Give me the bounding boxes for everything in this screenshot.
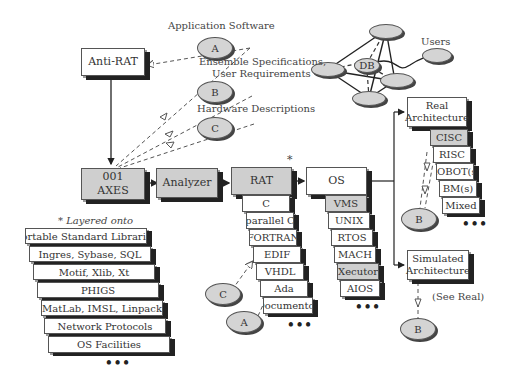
stack-label: BM(s) (443, 183, 474, 194)
oval-label: C (211, 123, 219, 134)
oval-label: A (211, 43, 218, 54)
os-stack-item: Xecutor (337, 263, 379, 280)
oval-label: B (414, 324, 421, 335)
stack-label: FORTRAN (249, 232, 297, 243)
ensemble-label-1: Ensemble Specifications, (199, 56, 326, 67)
oval-a-rat: A (226, 311, 262, 333)
oval-b: B (197, 81, 233, 103)
users-label: Users (421, 36, 450, 47)
simulated-architecture-box: Simulated Architecture (407, 250, 469, 280)
ensemble-label-2: User Requirements (212, 68, 311, 79)
axes-box: 001 AXES (81, 168, 145, 200)
layer-label: Network Protocols (58, 321, 153, 332)
stack-label: AIOS (347, 283, 373, 294)
stack-label: Documentor (263, 300, 313, 311)
rat-stack-item: C (242, 195, 290, 212)
network-node (369, 24, 403, 39)
hardware-descriptions-label: Hardware Descriptions (197, 103, 315, 114)
layer-label: Portable Standard Libraries (25, 231, 147, 242)
oval-label: B (415, 214, 422, 225)
rat-stack-ellipsis: ••• (287, 318, 313, 332)
users-node (422, 48, 452, 63)
application-software-label: Application Software (168, 20, 275, 31)
stack-label: VMS (334, 198, 358, 209)
rat-stack-item: parallel C (246, 212, 294, 229)
rat-box: RAT (231, 167, 292, 195)
rat-label: RAT (250, 174, 273, 188)
oval-label: B (211, 87, 218, 98)
layer-label: Ingres, Sybase, SQL (39, 249, 142, 260)
stack-label: ROBOT(s) (436, 166, 474, 177)
rat-stack-item: Documentor (263, 297, 313, 314)
sim-label-2: Architecture (406, 265, 470, 277)
stack-label: RTOS (337, 232, 366, 243)
layered-onto-title: * Layered onto (58, 215, 133, 226)
db-node: DB (354, 58, 380, 73)
real-label-2: Architecture (405, 112, 469, 124)
layer-item: Ingres, Sybase, SQL (29, 246, 151, 262)
layer-item: PHIGS (37, 282, 159, 298)
analyzer-box: Analyzer (156, 168, 218, 198)
arch-stack-item: BM(s) (439, 180, 477, 197)
layer-item: Portable Standard Libraries (25, 228, 147, 244)
network-node (352, 91, 386, 106)
oval-c-rat: C (205, 283, 241, 305)
stack-label: VHDL (265, 266, 296, 277)
anti-rat-label: Anti-RAT (88, 55, 138, 69)
arch-stack-ellipsis: ••• (462, 217, 488, 231)
stack-label: parallel C (246, 215, 294, 226)
arch-stack-item: ROBOT(s) (436, 163, 474, 180)
layer-item: MatLab, IMSL, Linpack (41, 300, 163, 316)
db-label: DB (359, 60, 374, 71)
layer-item: Network Protocols (44, 318, 166, 334)
oval-b-real: B (401, 208, 437, 230)
see-real-label: (See Real) (432, 291, 484, 302)
os-box: OS (306, 167, 367, 195)
arch-stack-item: Mixed (442, 197, 480, 214)
stack-label: Ada (274, 283, 294, 294)
layer-label: MatLab, IMSL, Linpack (42, 303, 162, 314)
arch-stack-item: RISC (433, 146, 471, 163)
anti-rat-box: Anti-RAT (81, 48, 145, 76)
axes-label-2: AXES (97, 184, 128, 198)
stack-label: CISC (436, 132, 462, 143)
os-stack-ellipsis: ••• (355, 300, 381, 314)
oval-label: A (240, 317, 247, 328)
stack-label: UNIX (335, 215, 363, 226)
os-stack-item: AIOS (340, 280, 380, 297)
network-node (380, 73, 414, 88)
axes-label-1: 001 (103, 170, 124, 184)
stack-label: MACH (338, 249, 372, 260)
layer-item: OS Facilities (48, 336, 170, 353)
stack-label: EDIF (264, 249, 290, 260)
real-architecture-box: Real Architecture (407, 97, 467, 127)
os-stack-item: RTOS (331, 229, 373, 246)
arch-stack-item: CISC (430, 129, 468, 146)
analyzer-label: Analyzer (163, 176, 212, 190)
os-stack-item: VMS (325, 195, 367, 212)
rat-asterisk: * (287, 153, 293, 166)
rat-stack-item: VHDL (256, 263, 304, 280)
layer-label: OS Facilities (77, 339, 141, 350)
oval-c: C (197, 117, 233, 139)
os-stack-item: MACH (334, 246, 376, 263)
oval-b-sim: B (400, 318, 436, 340)
os-stack-item: UNIX (328, 212, 370, 229)
stack-label: C (262, 198, 270, 209)
rat-stack-item: Ada (260, 280, 308, 297)
os-label: OS (328, 174, 345, 188)
layer-item: Motif, Xlib, Xt (33, 264, 155, 280)
real-label-1: Real (426, 100, 449, 112)
stack-label: RISC (439, 149, 465, 160)
layer-label: PHIGS (81, 285, 115, 296)
layered-ellipsis: ••• (105, 356, 131, 370)
rat-stack-item: EDIF (253, 246, 301, 263)
stack-label: Mixed (445, 200, 476, 211)
sim-label-1: Simulated (412, 253, 463, 265)
oval-label: C (219, 289, 227, 300)
layer-label: Motif, Xlib, Xt (59, 267, 130, 278)
rat-stack-item: FORTRAN (249, 229, 297, 246)
stack-label: Xecutor (338, 266, 378, 277)
